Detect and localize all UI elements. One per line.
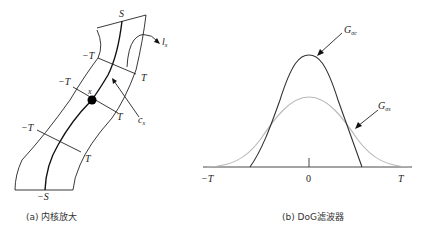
g-center-pointer: [320, 33, 342, 53]
label-top-s: S: [119, 8, 124, 19]
label-g-surround: Gσs: [378, 100, 391, 112]
g-surround-pointer: [358, 110, 378, 126]
label-pos-t-3: T: [85, 153, 92, 164]
label-bottom-s: −S: [37, 191, 49, 202]
label-g-center: Gσc: [344, 24, 357, 36]
label-neg-t-1: −T: [82, 50, 96, 61]
panel-a-caption: (a) 内核放大: [26, 211, 77, 222]
dog-filter-panel: Gσc Gσs −T 0 T (b) DoG滤波器: [201, 24, 412, 222]
g-surround-arrowhead: [355, 122, 362, 129]
cross-line-1: [98, 58, 136, 74]
point-x-marker: [88, 96, 97, 105]
figure: S −S −T −T −T T T T x cx lx (a) 内核放大 Gσc…: [0, 0, 424, 232]
label-neg-t-3: −T: [21, 122, 35, 133]
line-l-curve: [127, 35, 156, 67]
cross-line-3: [37, 130, 81, 152]
central-curve: [45, 21, 122, 190]
x-label-zero: 0: [306, 173, 311, 184]
x-label-pos-t: T: [398, 173, 405, 184]
label-neg-t-2: −T: [58, 76, 72, 87]
curve-c-arrowhead: [112, 78, 117, 84]
label-curve-c: cx: [138, 114, 145, 126]
label-pos-t-2: T: [117, 111, 124, 122]
panel-b-caption: (b) DoG滤波器: [282, 211, 344, 222]
label-point-x: x: [87, 87, 92, 96]
label-line-l: lx: [162, 36, 168, 48]
kernel-right-boundary: [73, 15, 146, 190]
center-gaussian-curve: [250, 55, 362, 167]
x-label-neg-t: −T: [201, 173, 215, 184]
label-pos-t-1: T: [141, 72, 148, 83]
kernel-panel: S −S −T −T −T T T T x cx lx (a) 内核放大: [15, 8, 168, 222]
